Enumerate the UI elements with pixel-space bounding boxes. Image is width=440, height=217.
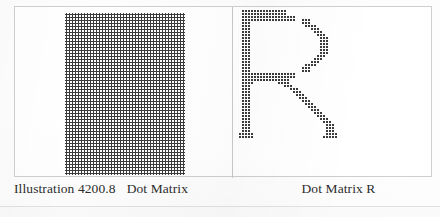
figure-frame	[14, 6, 432, 177]
caption-illustration-number: Illustration 4200.8	[14, 181, 116, 196]
panel-solid-dot-matrix	[15, 7, 232, 178]
figure-caption-row: Illustration 4200.8Dot Matrix Dot Matrix…	[14, 181, 432, 201]
caption-left-title: Dot Matrix	[127, 181, 188, 196]
caption-right-title: Dot Matrix R	[245, 181, 432, 197]
dot-matrix-solid-grid	[65, 13, 185, 175]
dot-matrix-letter-r-grid	[236, 10, 431, 176]
panel-letter-r-dot-matrix	[233, 7, 432, 178]
footer-band	[0, 207, 440, 217]
caption-left: Illustration 4200.8Dot Matrix	[14, 181, 188, 197]
